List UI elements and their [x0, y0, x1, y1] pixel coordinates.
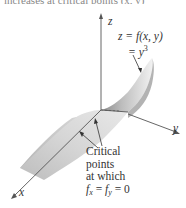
- annotation-line-3: at which: [86, 170, 130, 183]
- z-axis-label: z: [108, 15, 112, 27]
- annotation-zero: = 0: [112, 183, 130, 195]
- equation-line-2: = y3: [128, 43, 148, 58]
- equation-line-1: z = f(x, y): [118, 30, 163, 42]
- x-axis-label: x: [19, 186, 24, 198]
- annotation-line-1: Critical: [86, 145, 130, 158]
- annotation-line-4: fx = fy = 0: [86, 183, 130, 200]
- equation-line-2-base: = y: [128, 46, 144, 58]
- annotation-line-2: points: [86, 158, 130, 171]
- critical-points-annotation: Critical points at which fx = fy = 0: [86, 145, 130, 199]
- equation-exponent: 3: [144, 44, 148, 53]
- y-axis-label: y: [173, 122, 178, 134]
- annotation-eq: =: [93, 183, 105, 195]
- surface-curl: [101, 58, 153, 112]
